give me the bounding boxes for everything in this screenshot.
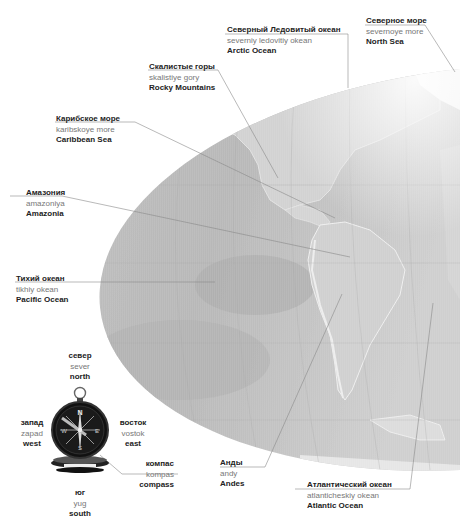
label-ru: Карибское море [56,114,120,125]
compass-letter-w: W [61,428,67,434]
label-en: west [12,439,52,449]
label-transliteration: sever [62,362,98,372]
label-en: east [111,439,155,449]
label-ru: юг [62,488,98,499]
label-ru: восток [111,418,155,429]
label-ru: Северное море [366,16,427,27]
label-arctic-ocean: Северный Ледовитый океан severniy ledovi… [227,25,341,56]
label-compass: компас kompas compass [130,459,174,490]
label-en: Caribbean Sea [56,135,120,145]
compass-letter-e: E [95,428,99,434]
label-en: Arctic Ocean [227,46,341,56]
compass-illustration: N S E W [48,385,112,475]
label-atlantic-ocean: Атлантический океан atlanticheskiy okean… [307,480,392,511]
label-ru: Атлантический океан [307,480,392,491]
label-transliteration: yug [62,499,98,509]
label-ru: компас [130,459,174,470]
label-transliteration: andy [220,469,244,479]
label-ru: север [62,351,98,362]
label-andes: Анды andy Andes [220,458,244,489]
label-en: Atlantic Ocean [307,501,392,511]
label-transliteration: severniy ledovitiy okean [227,36,341,46]
label-transliteration: severnoye more [366,27,427,37]
label-ru: Скалистые горы [149,62,215,73]
label-amazonia: Амазония amazoniya Amazonia [26,188,65,219]
label-east: восток vostok east [111,418,155,449]
label-north: север sever north [62,351,98,382]
label-transliteration: vostok [111,429,155,439]
label-ru: Анды [220,458,244,469]
label-caribbean-sea: Карибское море karibskoye more Caribbean… [56,114,120,145]
label-south: юг yug south [62,488,98,519]
label-rocky-mountains: Скалистые горы skalistiye gory Rocky Mou… [149,62,215,93]
label-en: compass [130,480,174,490]
label-west: запад zapad west [12,418,52,449]
label-en: north [62,372,98,382]
label-transliteration: amazoniya [26,199,65,209]
label-transliteration: atlanticheskiy okean [307,491,392,501]
label-pacific-ocean: Тихий океан tikhiy okean Pacific Ocean [16,274,68,305]
label-en: North Sea [366,37,427,47]
label-north-sea: Северное море severnoye more North Sea [366,16,427,47]
compass-letter-n: N [77,409,82,416]
label-ru: запад [12,418,52,429]
label-transliteration: skalistiye gory [149,73,215,83]
label-ru: Амазония [26,188,65,199]
label-ru: Северный Ледовитый океан [227,25,341,36]
label-transliteration: kompas [130,470,174,480]
label-en: south [62,509,98,519]
compass-letter-s: S [78,445,82,451]
compass-ring-icon [75,388,86,399]
label-en: Amazonia [26,209,65,219]
label-en: Rocky Mountains [149,83,215,93]
label-ru: Тихий океан [16,274,68,285]
label-en: Pacific Ocean [16,295,68,305]
label-transliteration: tikhiy okean [16,285,68,295]
label-transliteration: karibskoye more [56,125,120,135]
label-en: Andes [220,479,244,489]
label-transliteration: zapad [12,429,52,439]
